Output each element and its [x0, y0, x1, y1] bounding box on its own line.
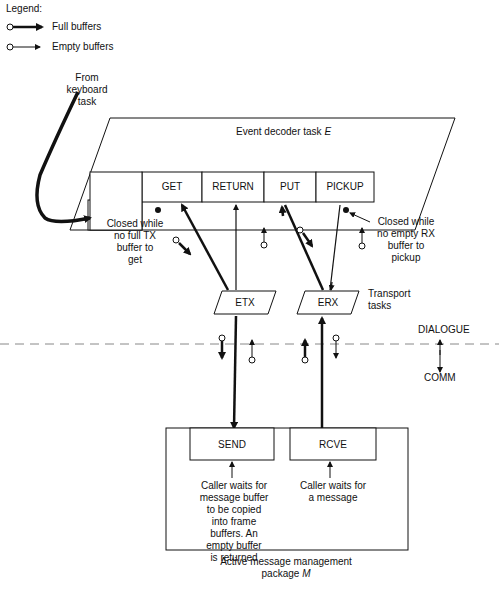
send-note: Caller waits for message buffer to be co…	[192, 480, 276, 564]
legend-full-buffers-label: Full buffers	[52, 21, 101, 33]
slot-put: PUT	[264, 181, 316, 192]
event-decoder-title: Event decoder task E	[236, 126, 331, 138]
legend-empty-buffers-label: Empty buffers	[52, 41, 114, 53]
slot-pickup: PICKUP	[316, 181, 374, 192]
erx-label: ERX	[297, 297, 359, 308]
get-closed-note: Closed while no full TX buffer to get	[100, 218, 170, 266]
legend-full-buffer-symbol	[7, 24, 42, 30]
legend-title: Legend:	[6, 3, 42, 15]
etx-label: ETX	[214, 297, 276, 308]
rcve-note: Caller waits for a message	[290, 480, 376, 504]
legend-empty-buffer-symbol	[7, 44, 40, 50]
dialogue-layer-label: DIALOGUE	[418, 324, 470, 336]
keyboard-source-label: From keyboard task	[62, 72, 112, 108]
slot-return: RETURN	[202, 181, 264, 192]
pickup-closed-note: Closed while no empty RX buffer to picku…	[368, 216, 444, 264]
comm-layer-label: COMM	[424, 372, 456, 384]
rcve-label: RCVE	[290, 439, 376, 450]
transport-tasks-label: Transport tasks	[368, 288, 410, 312]
message-package-title: Active message management package M	[186, 556, 386, 580]
send-label: SEND	[190, 439, 274, 450]
slot-get: GET	[142, 181, 202, 192]
